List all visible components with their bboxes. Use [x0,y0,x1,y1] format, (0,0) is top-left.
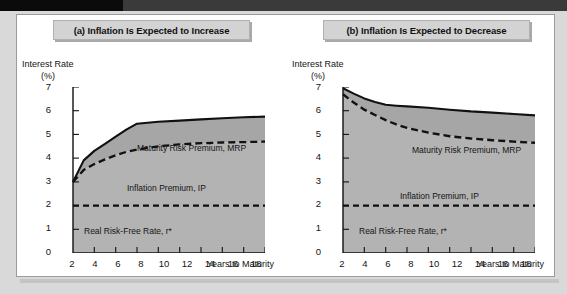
chart-b-ytick-3: 3 [307,175,321,186]
chart-b-ytick-1: 1 [307,222,321,233]
chart-b-ytick-0: 0 [307,246,321,257]
chart-b-xtick-16: 16 [495,258,511,269]
chart-a-xtick-14: 14 [202,258,218,269]
chart-b-ytick-5: 5 [307,128,321,139]
chart-a-xtick-4: 4 [87,258,103,269]
chart-a-xtick-12: 12 [179,258,195,269]
chart-a-title: (a) Inflation Is Expected to Increase [53,20,250,40]
chart-a-ytick-1: 1 [37,222,51,233]
chart-b-xtick-2: 2 [334,258,350,269]
chart-a-label-rf: Real Risk-Free Rate, r* [84,226,172,236]
chart-b-ytick-6: 6 [307,104,321,115]
chart-a-ytick-0: 0 [37,246,51,257]
chart-a-xtick-8: 8 [133,258,149,269]
chart-a-xtick-16: 16 [225,258,241,269]
chart-panel-b: (b) Inflation Is Expected to Decrease In… [287,15,556,278]
chart-b-y-axis-title: Interest Rate [292,59,344,69]
chart-a-label-mrp: Maturity Risk Premium, MRP [137,143,246,153]
chart-a-xtick-2: 2 [64,258,80,269]
top-black-bar [0,0,123,11]
chart-a-ytick-2: 2 [37,198,51,209]
chart-b-ytick-2: 2 [307,198,321,209]
chart-b-xtick-12: 12 [449,258,465,269]
chart-b-label-ip: Inflation Premium, IP [400,191,479,201]
top-gray-bar [123,0,567,11]
chart-b-label-rf: Real Risk-Free Rate, r* [359,226,447,236]
chart-b-xtick-18: 18 [518,258,534,269]
chart-a-xtick-6: 6 [110,258,126,269]
chart-b-ytick-7: 7 [307,81,321,92]
chart-a-label-ip: Inflation Premium, IP [127,183,206,193]
chart-a-ytick-3: 3 [37,175,51,186]
chart-b-y-axis-units: (%) [311,71,325,81]
figure-panel: (a) Inflation Is Expected to Increase In… [16,14,555,277]
chart-a-xtick-18: 18 [248,258,264,269]
chart-a-ytick-7: 7 [37,81,51,92]
chart-a-ytick-4: 4 [37,151,51,162]
chart-b-xtick-14: 14 [472,258,488,269]
chart-b-xtick-6: 6 [380,258,396,269]
chart-b-xtick-4: 4 [357,258,373,269]
chart-b-label-mrp: Maturity Risk Premium, MRP [412,145,521,155]
chart-b-xtick-8: 8 [403,258,419,269]
chart-a-ytick-6: 6 [37,104,51,115]
figure-page: (a) Inflation Is Expected to Increase In… [0,0,567,294]
chart-a-xtick-10: 10 [156,258,172,269]
panel-drop-shadow [20,279,559,283]
chart-b-ytick-4: 4 [307,151,321,162]
chart-panel-a: (a) Inflation Is Expected to Increase In… [17,15,286,278]
chart-b-title: (b) Inflation Is Expected to Decrease [323,20,530,40]
chart-a-ytick-5: 5 [37,128,51,139]
chart-a-y-axis-units: (%) [41,71,55,81]
chart-a-y-axis-title: Interest Rate [22,59,74,69]
chart-b-xtick-10: 10 [426,258,442,269]
